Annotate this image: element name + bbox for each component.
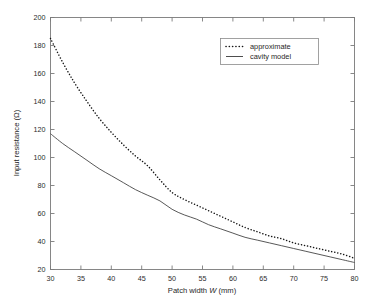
x-tick-label: 80 bbox=[351, 274, 359, 283]
x-tick-label: 70 bbox=[290, 274, 298, 283]
x-axis-title-prefix: Patch width bbox=[168, 286, 209, 295]
x-tick-label: 35 bbox=[77, 274, 85, 283]
y-tick-label: 60 bbox=[38, 209, 46, 218]
y-tick-label: 100 bbox=[34, 153, 46, 162]
y-tick-label: 160 bbox=[34, 69, 46, 78]
y-tick-label: 140 bbox=[34, 97, 46, 106]
y-tick-label: 40 bbox=[38, 237, 46, 246]
legend-label-approximate: approximate bbox=[250, 42, 291, 51]
x-axis-title: Patch width W (mm) bbox=[168, 286, 237, 295]
x-tick-label: 75 bbox=[320, 274, 328, 283]
x-tick-label: 50 bbox=[168, 274, 176, 283]
chart-figure: 20406080100120140160180200 3035404550556… bbox=[0, 0, 374, 307]
legend-label-cavity-model: cavity model bbox=[250, 52, 291, 61]
y-tick-label: 80 bbox=[38, 181, 46, 190]
y-tick-label: 200 bbox=[34, 13, 46, 22]
y-axis-title: Input resistance (Ω) bbox=[12, 109, 21, 176]
x-tick-label: 30 bbox=[47, 274, 55, 283]
x-axis-title-suffix: (mm) bbox=[216, 286, 236, 295]
chart-canvas: 20406080100120140160180200 3035404550556… bbox=[0, 0, 374, 307]
x-tick-label: 65 bbox=[259, 274, 267, 283]
x-tick-label: 60 bbox=[229, 274, 237, 283]
y-tick-label: 20 bbox=[38, 265, 46, 274]
legend: approximate cavity model bbox=[221, 39, 319, 65]
y-tick-label: 180 bbox=[34, 41, 46, 50]
x-tick-label: 45 bbox=[138, 274, 146, 283]
y-tick-label: 120 bbox=[34, 125, 46, 134]
x-tick-label: 55 bbox=[199, 274, 207, 283]
x-tick-label: 40 bbox=[107, 274, 115, 283]
